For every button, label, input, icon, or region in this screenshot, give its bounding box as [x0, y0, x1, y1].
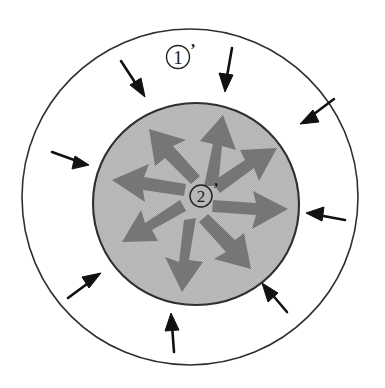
diagram-figure: 1 ’ 2 ’: [0, 0, 385, 388]
diagram-canvas: 1 ’ 2 ’: [0, 0, 385, 388]
inner-label-prime: ’: [213, 180, 218, 197]
inner-label-number: 2: [197, 187, 206, 206]
outer-label-number: 1: [173, 47, 183, 68]
outer-label-prime: ’: [190, 41, 195, 58]
